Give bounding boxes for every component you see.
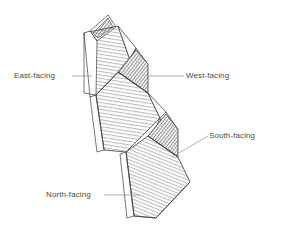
panel-north-facing xyxy=(120,136,190,218)
label-north-facing: North-facing xyxy=(46,190,91,200)
label-west-facing: West-facing xyxy=(186,71,229,81)
north-facing-surface xyxy=(126,136,190,218)
east-facing-left-edge xyxy=(84,31,97,97)
label-east-facing: East-facing xyxy=(14,71,55,81)
label-south-facing: South-facing xyxy=(209,131,255,141)
sawtooth-roof-diagram xyxy=(0,0,281,245)
figure-root: East-facing West-facing South-facing Nor… xyxy=(0,0,281,245)
